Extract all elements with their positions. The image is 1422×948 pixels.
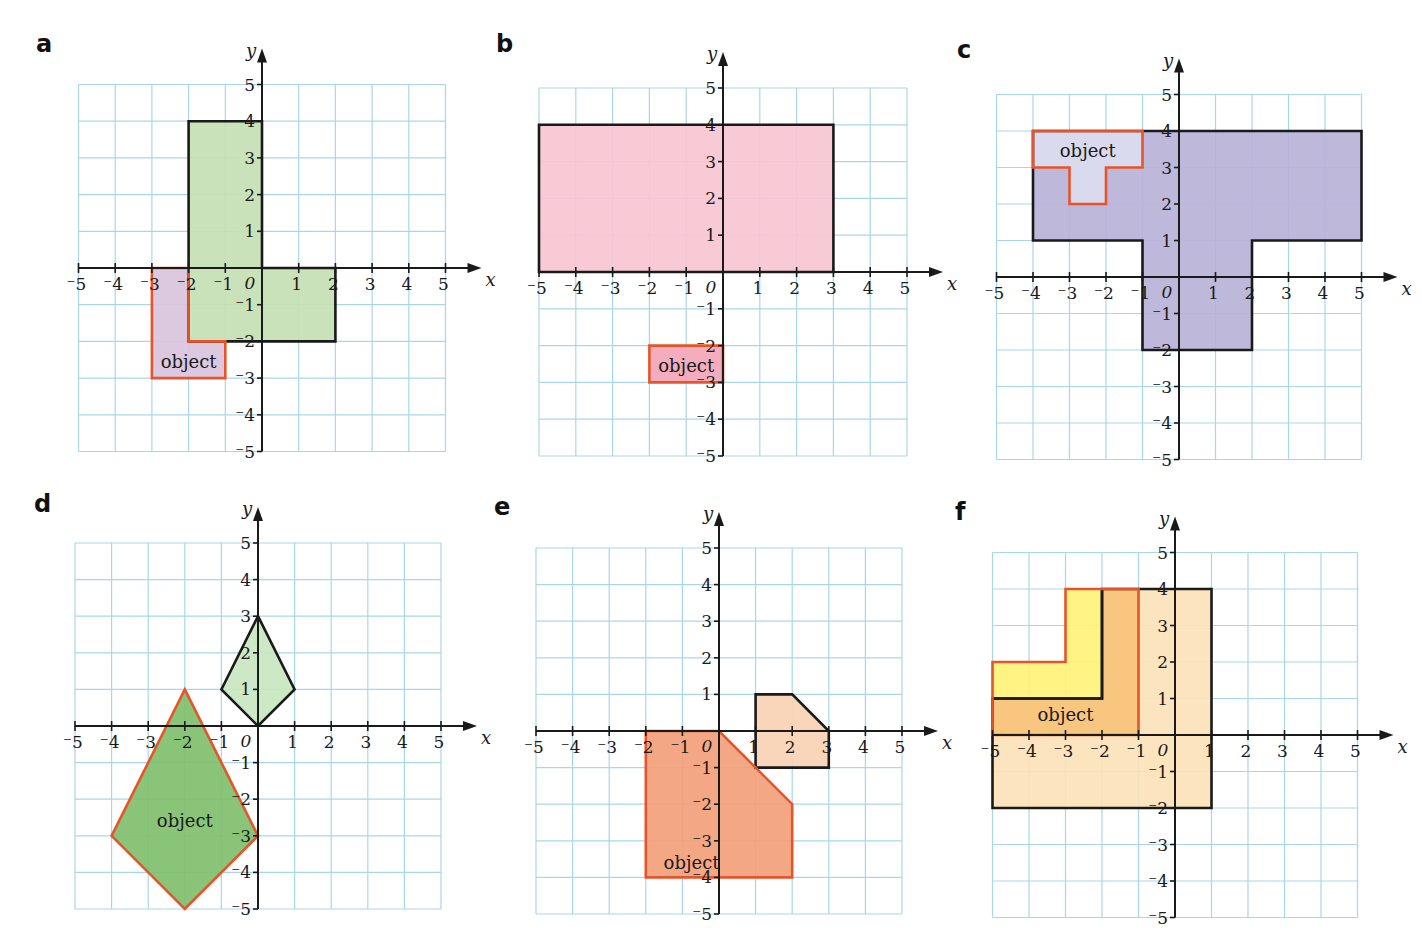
- object-label: object: [161, 351, 218, 372]
- y-tick-label: 4: [1157, 579, 1168, 599]
- y-tick-label: ⁻1: [696, 299, 716, 319]
- x-tick-label: ⁻2: [634, 737, 654, 757]
- y-tick-label: ⁻5: [696, 446, 716, 466]
- y-tick-label: ⁻5: [692, 904, 712, 924]
- x-tick-label: 3: [1277, 741, 1288, 761]
- x-tick-label: ⁻4: [103, 274, 123, 294]
- x-tick-label: 1: [291, 274, 302, 294]
- y-tick-label: 1: [244, 221, 255, 241]
- origin-label: 0: [702, 736, 713, 756]
- x-tick-label: 1: [752, 278, 763, 298]
- x-tick-label: 4: [858, 737, 869, 757]
- origin-label: 0: [245, 273, 256, 293]
- x-tick-label: 5: [895, 737, 906, 757]
- y-axis-arrow-icon: [714, 512, 724, 526]
- x-tick-label: 3: [826, 278, 837, 298]
- x-axis-label: x: [486, 269, 496, 290]
- x-tick-label: ⁻5: [981, 741, 1001, 761]
- panel-letter-a: a: [36, 30, 52, 58]
- y-tick-label: ⁻5: [231, 899, 251, 919]
- x-tick-label: 2: [328, 274, 339, 294]
- y-tick-label: 4: [705, 115, 716, 135]
- y-tick-label: ⁻4: [696, 409, 716, 429]
- y-tick-label: ⁻3: [231, 826, 251, 846]
- y-tick-label: ⁻1: [692, 758, 712, 778]
- y-tick-label: 4: [1161, 121, 1172, 141]
- y-tick-label: ⁻2: [692, 794, 712, 814]
- y-tick-label: ⁻1: [1148, 762, 1168, 782]
- y-tick-label: 1: [705, 225, 716, 245]
- y-tick-label: 1: [1161, 231, 1172, 251]
- y-axis-label: y: [702, 503, 714, 524]
- y-tick-label: ⁻3: [692, 831, 712, 851]
- panel-letter-e: e: [494, 493, 510, 521]
- y-tick-label: 3: [705, 152, 716, 172]
- x-axis-arrow-icon: [463, 721, 477, 731]
- y-tick-label: ⁻1: [235, 295, 255, 315]
- y-tick-label: 5: [240, 533, 251, 553]
- y-tick-label: 1: [701, 684, 712, 704]
- y-axis-arrow-icon: [257, 49, 267, 63]
- x-tick-label: ⁻3: [140, 274, 160, 294]
- x-tick-label: 4: [863, 278, 874, 298]
- x-axis-label: x: [1398, 736, 1408, 757]
- y-tick-label: ⁻2: [696, 336, 716, 356]
- y-tick-label: ⁻4: [235, 405, 255, 425]
- y-tick-label: 5: [244, 75, 255, 95]
- x-tick-label: ⁻2: [177, 274, 197, 294]
- x-tick-label: 3: [1281, 283, 1292, 303]
- y-tick-label: ⁻5: [1152, 450, 1172, 470]
- x-tick-label: ⁻4: [561, 737, 581, 757]
- y-tick-label: 4: [240, 570, 251, 590]
- y-axis-label: y: [241, 498, 253, 519]
- x-tick-label: 1: [1204, 741, 1215, 761]
- y-tick-label: 4: [701, 575, 712, 595]
- x-tick-label: ⁻5: [985, 283, 1005, 303]
- object-label: object: [157, 810, 214, 831]
- x-tick-label: ⁻1: [674, 278, 694, 298]
- panel-letter-f: f: [955, 498, 965, 526]
- y-tick-label: ⁻2: [1148, 798, 1168, 818]
- x-tick-label: 5: [434, 732, 445, 752]
- y-tick-label: 5: [705, 78, 716, 98]
- x-tick-label: ⁻1: [213, 274, 233, 294]
- x-tick-label: ⁻4: [1017, 741, 1037, 761]
- y-tick-label: 3: [701, 611, 712, 631]
- y-tick-label: 2: [705, 188, 716, 208]
- y-axis-arrow-icon: [1170, 517, 1180, 531]
- x-tick-label: ⁻2: [173, 732, 193, 752]
- y-tick-label: 5: [1157, 543, 1168, 563]
- x-tick-label: ⁻1: [1131, 283, 1151, 303]
- panel-c: ⁻5⁻5⁻4⁻4⁻3⁻3⁻2⁻2⁻1⁻111223344550xyobject: [985, 50, 1412, 470]
- y-axis-label: y: [1162, 50, 1174, 71]
- x-axis-arrow-icon: [924, 726, 938, 736]
- origin-label: 0: [241, 731, 252, 751]
- y-tick-label: 5: [701, 538, 712, 558]
- y-tick-label: ⁻2: [231, 789, 251, 809]
- y-tick-label: ⁻3: [1152, 377, 1172, 397]
- panel-letter-c: c: [957, 36, 971, 64]
- x-tick-label: 4: [397, 732, 408, 752]
- x-tick-label: ⁻1: [1127, 741, 1147, 761]
- x-tick-label: 4: [401, 274, 412, 294]
- panel-d: ⁻5⁻5⁻4⁻4⁻3⁻3⁻2⁻2⁻1⁻111223344550xyobject: [63, 498, 491, 919]
- x-tick-label: ⁻3: [597, 737, 617, 757]
- x-tick-label: ⁻3: [136, 732, 156, 752]
- x-tick-label: ⁻5: [524, 737, 544, 757]
- x-tick-label: ⁻5: [63, 732, 83, 752]
- y-tick-label: ⁻2: [1152, 340, 1172, 360]
- x-tick-label: ⁻2: [1090, 741, 1110, 761]
- x-tick-label: 3: [365, 274, 376, 294]
- panel-letter-d: d: [34, 490, 51, 518]
- y-tick-label: 3: [1157, 616, 1168, 636]
- y-axis-label: y: [245, 40, 257, 61]
- y-tick-label: ⁻5: [1148, 908, 1168, 928]
- x-tick-label: ⁻5: [527, 278, 547, 298]
- y-axis-arrow-icon: [253, 507, 263, 521]
- origin-label: 0: [1162, 282, 1173, 302]
- x-tick-label: ⁻1: [671, 737, 691, 757]
- axes: ⁻5⁻5⁻4⁻4⁻3⁻3⁻2⁻2⁻1⁻111223344550xy: [67, 40, 496, 462]
- y-tick-label: 2: [240, 643, 251, 663]
- y-tick-label: 2: [1161, 194, 1172, 214]
- x-tick-label: ⁻3: [1054, 741, 1074, 761]
